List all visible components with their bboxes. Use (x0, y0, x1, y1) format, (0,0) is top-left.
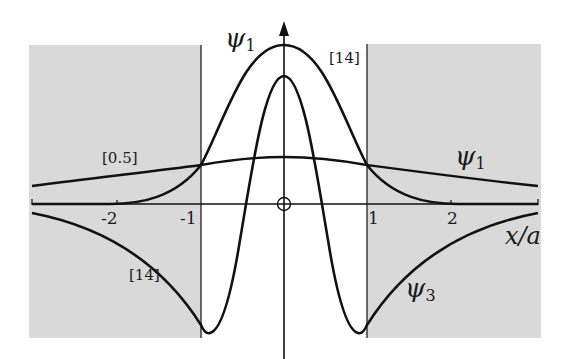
label-psi1-right: ψ1 (455, 143, 486, 172)
tick-label-minus2: -2 (101, 210, 118, 227)
tag-14-bottom: [14] (129, 268, 160, 283)
label-psi1-top: ψ1 (225, 25, 256, 54)
x-axis-label: x/a (505, 224, 541, 248)
plot-canvas (0, 0, 570, 359)
right-barrier-region (367, 44, 541, 338)
tick-label-1: 1 (368, 210, 379, 227)
wavefunction-diagram: ψ1 [14] [0.5] ψ1 [14] ψ3 -2 -1 1 2 x/a (0, 0, 570, 359)
tick-label-2: 2 (447, 210, 458, 227)
tag-05: [0.5] (102, 151, 138, 166)
tag-14-top: [14] (329, 51, 360, 66)
tick-label-minus1: -1 (180, 210, 197, 227)
y-axis-arrow-icon (279, 21, 289, 36)
left-barrier-region (29, 45, 201, 338)
label-psi3: ψ3 (405, 275, 436, 304)
